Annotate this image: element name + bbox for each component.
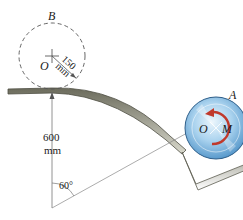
- label-height-value: 600: [43, 131, 60, 143]
- label-O-disk: O: [199, 122, 208, 136]
- label-height-unit: mm: [44, 144, 62, 156]
- label-O-top: O: [40, 59, 49, 73]
- label-angle: 60°: [59, 180, 73, 191]
- label-A: A: [228, 88, 237, 102]
- curved-track: [8, 88, 186, 154]
- label-B: B: [48, 9, 56, 23]
- diagram-canvas: B O 150 mm 600 mm 60° O M A: [0, 0, 243, 220]
- label-M: M: [221, 122, 233, 136]
- disk-A: [185, 97, 243, 159]
